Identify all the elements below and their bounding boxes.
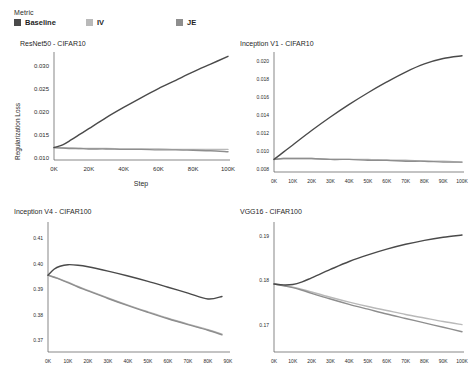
legend-swatch-icon bbox=[176, 19, 183, 26]
legend-label: IV bbox=[97, 18, 104, 27]
legend-item-iv[interactable]: IV bbox=[86, 18, 176, 27]
series-line-baseline bbox=[48, 265, 222, 299]
plot-area bbox=[8, 40, 236, 200]
legend: Metric Baseline IV JE bbox=[14, 9, 244, 27]
legend-label: Baseline bbox=[25, 18, 56, 27]
plot-area bbox=[238, 208, 470, 380]
chart-panel-vgg16-cifar100: VGG16 - CIFAR1000.170.180.190K10K20K30K4… bbox=[238, 208, 470, 380]
legend-title: Metric bbox=[14, 9, 244, 16]
series-line-baseline bbox=[274, 235, 462, 285]
legend-swatch-icon bbox=[86, 19, 93, 26]
legend-items: Baseline IV JE bbox=[14, 18, 244, 27]
plot-area bbox=[8, 208, 236, 380]
legend-item-baseline[interactable]: Baseline bbox=[14, 18, 86, 27]
legend-swatch-icon bbox=[14, 19, 21, 26]
series-line-baseline bbox=[54, 56, 228, 147]
chart-panel-inception-v4-cifar100: Inception V4 - CIFAR1000.370.380.390.400… bbox=[8, 208, 236, 380]
legend-label: JE bbox=[187, 18, 196, 27]
plot-area bbox=[238, 40, 470, 200]
chart-panel-resnet50-cifar10: ResNet50 - CIFAR10Regularization Loss0.0… bbox=[8, 40, 236, 200]
chart-panel-inception-v1-cifar10: Inception V1 - CIFAR100.0080.0100.0120.0… bbox=[238, 40, 470, 200]
series-line-baseline bbox=[274, 56, 462, 160]
series-line-je bbox=[274, 284, 462, 332]
series-line-iv bbox=[48, 275, 222, 334]
legend-item-je[interactable]: JE bbox=[176, 18, 196, 27]
